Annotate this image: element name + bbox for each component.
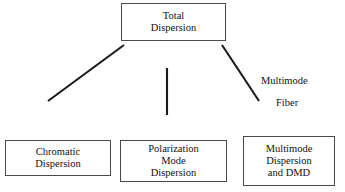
node-multimode-dispersion-and-dmd: Multimode Dispersion and DMD [243, 136, 335, 186]
node-polarization-mode-dispersion-label: Polarization Mode Dispersion [146, 143, 201, 178]
dispersion-hierarchy-diagram: Total Dispersion Multimode Fiber Chromat… [0, 0, 345, 192]
edge-total-to-chromatic [48, 45, 124, 101]
edge-total-to-multimode [222, 45, 259, 101]
edge-label-fiber-text: Fiber [276, 97, 298, 108]
node-chromatic-dispersion: Chromatic Dispersion [5, 140, 111, 176]
edge-label-multimode: Multimode [261, 76, 308, 87]
edge-label-fiber: Fiber [276, 98, 298, 109]
node-chromatic-dispersion-label: Chromatic Dispersion [33, 146, 83, 170]
node-polarization-mode-dispersion: Polarization Mode Dispersion [120, 140, 227, 182]
node-total-dispersion: Total Dispersion [121, 3, 226, 41]
node-total-dispersion-label: Total Dispersion [149, 10, 199, 34]
node-multimode-dispersion-and-dmd-label: Multimode Dispersion and DMD [264, 143, 315, 178]
edge-label-multimode-text: Multimode [261, 75, 308, 86]
